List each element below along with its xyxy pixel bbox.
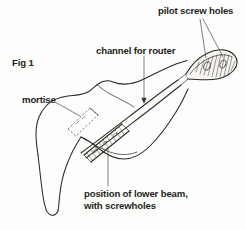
body-lower-edge [81, 89, 188, 159]
router-channel [81, 74, 188, 158]
channel-line-lower [86, 85, 181, 158]
beam-edge-upper [84, 124, 122, 155]
scroll-fill [186, 50, 237, 80]
mortise-label: mortise [22, 94, 56, 106]
channel-neck-converge-1 [178, 74, 186, 80]
pilot-screw-holes-label: pilot screw holes [158, 5, 233, 17]
channel-neck-converge-2 [181, 79, 188, 85]
mortise-tick-1 [76, 121, 79, 124]
scroll-end [186, 50, 237, 80]
channel-line-upper [81, 80, 178, 153]
lower-beam-label-line1: position of lower beam, [84, 188, 188, 199]
lower-beam-label-line2: with screwholes [84, 200, 156, 211]
figure-container: Fig 1 mortise channel for router pilot s… [0, 0, 245, 230]
leader-channel-arrowhead [141, 98, 146, 104]
body-hook-outer [38, 155, 58, 215]
position-of-lower-beam-label: position of lower beam,with screwholes [84, 188, 188, 211]
beam-cap-left [84, 155, 91, 162]
body-hook-inner [58, 137, 81, 211]
figure-number-label: Fig 1 [12, 57, 34, 69]
mortise-tick-2 [82, 116, 85, 119]
body-upper-edge [47, 61, 187, 106]
leader-pilot-left [200, 19, 206, 58]
body-inner-contour [83, 85, 137, 155]
channel-for-router-label: channel for router [96, 45, 175, 57]
body-left-shoulder [36, 105, 47, 155]
inner-waist-curve [97, 85, 134, 108]
mortise-edge-highlight [90, 108, 98, 115]
leader-mortise [55, 102, 80, 116]
